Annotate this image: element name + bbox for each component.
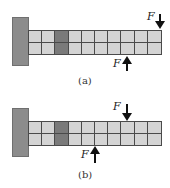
beam-element: [29, 134, 42, 146]
beam-element: [29, 31, 42, 43]
subfigure-caption-b: (b): [78, 169, 92, 180]
beam-element: [82, 134, 95, 146]
beam-element: [42, 122, 55, 134]
beam-element: [29, 43, 42, 55]
beam-element: [135, 31, 148, 43]
beam-element: [135, 122, 148, 134]
beam-element: [148, 134, 161, 146]
beam-element: [69, 122, 82, 134]
beam-element: [108, 134, 121, 146]
cantilever-beam-a: [28, 30, 162, 55]
force-arrow-down-icon: [121, 104, 133, 120]
force-arrow-down-icon: [154, 14, 166, 28]
force-label: F: [113, 57, 121, 70]
force-label: F: [81, 148, 89, 161]
beam-element: [135, 134, 148, 146]
beam-element: [82, 31, 95, 43]
beam-element: [42, 43, 55, 55]
highlighted-element: [55, 122, 68, 134]
beam-element: [69, 43, 82, 55]
beam-element: [148, 31, 161, 43]
beam-element: [108, 122, 121, 134]
beam-element: [148, 122, 161, 134]
beam-element: [82, 43, 95, 55]
beam-element: [121, 122, 134, 134]
beam-element: [95, 122, 108, 134]
beam-element: [135, 43, 148, 55]
cantilever-beam-b: [28, 121, 162, 146]
fixed-wall-support-b: [12, 108, 29, 157]
force-label: F: [113, 100, 121, 113]
beam-element: [69, 31, 82, 43]
force-arrow-up-icon: [89, 146, 101, 163]
beam-element: [42, 134, 55, 146]
beam-element: [108, 31, 121, 43]
force-label: F: [147, 10, 155, 23]
force-arrow-up-icon: [121, 56, 133, 71]
beam-element: [95, 31, 108, 43]
beam-element: [121, 134, 134, 146]
fixed-wall-support-a: [12, 17, 29, 66]
beam-element: [148, 43, 161, 55]
highlighted-element: [55, 31, 68, 43]
beam-element: [95, 134, 108, 146]
beam-element: [121, 31, 134, 43]
beam-element: [121, 43, 134, 55]
beam-element: [42, 31, 55, 43]
beam-element: [69, 134, 82, 146]
highlighted-element: [55, 134, 68, 146]
highlighted-element: [55, 43, 68, 55]
subfigure-caption-a: (a): [78, 75, 92, 86]
beam-element: [82, 122, 95, 134]
beam-element: [95, 43, 108, 55]
beam-element: [108, 43, 121, 55]
beam-element: [29, 122, 42, 134]
